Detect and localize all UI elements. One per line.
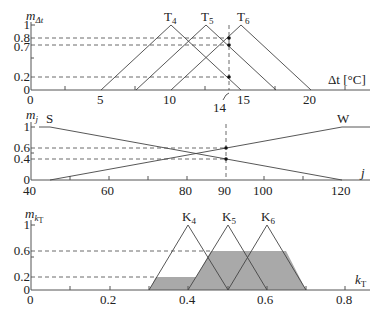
label-S: S — [46, 111, 53, 126]
svg-text:100: 100 — [253, 183, 273, 198]
mf-W — [50, 127, 370, 180]
svg-text:0.6: 0.6 — [257, 292, 274, 307]
point-W-0.6 — [224, 146, 228, 150]
svg-text:0: 0 — [27, 292, 34, 307]
svg-text:0.4: 0.4 — [14, 151, 31, 166]
annotation-arrow — [223, 93, 229, 100]
label-W: W — [337, 111, 350, 126]
svg-text:0.2: 0.2 — [100, 292, 116, 307]
x-axis-title: kT — [355, 272, 367, 289]
svg-text:60: 60 — [101, 183, 114, 198]
panel-j: 1 0.6 0.4 0 mj 40 60 80 90 100 120 j S W — [14, 107, 370, 198]
annotation-14: 14 — [213, 100, 227, 115]
svg-text:15: 15 — [237, 92, 250, 107]
label-T6: T6 — [237, 9, 250, 26]
point-T6-0.8 — [227, 36, 231, 40]
fuzzy-membership-figure: 1 0.8 0.7 0.2 0 mΔt 0 5 10 15 20 Δt [°C]… — [0, 0, 380, 312]
aggregated-area — [149, 251, 306, 290]
x-axis-title: Δt [°C] — [328, 72, 366, 87]
svg-text:40: 40 — [23, 183, 36, 198]
panel-kt: 1 0.6 0.2 0 mkT 0 0.2 0.4 0.6 0.8 kT K4 … — [14, 206, 370, 307]
label-K4: K4 — [182, 209, 196, 226]
svg-text:5: 5 — [97, 92, 104, 107]
svg-text:10: 10 — [163, 92, 176, 107]
label-K5: K5 — [222, 209, 236, 226]
svg-text:0.4: 0.4 — [179, 292, 196, 307]
label-K6: K6 — [261, 209, 275, 226]
panel-delta-t: 1 0.8 0.7 0.2 0 mΔt 0 5 10 15 20 Δt [°C]… — [14, 8, 370, 115]
x-axis-title: j — [359, 165, 365, 180]
y-axis-title: mj — [26, 107, 38, 124]
svg-text:0: 0 — [27, 92, 34, 107]
label-T4: T4 — [164, 9, 177, 26]
svg-text:90: 90 — [218, 183, 231, 198]
y-axis-title: mΔt — [26, 8, 44, 25]
svg-text:0.6: 0.6 — [14, 243, 31, 258]
svg-text:120: 120 — [331, 183, 351, 198]
svg-text:20: 20 — [303, 92, 316, 107]
svg-text:0.7: 0.7 — [14, 39, 31, 54]
svg-text:80: 80 — [179, 183, 192, 198]
point-S-0.4 — [224, 157, 228, 161]
point-T4-0.2 — [227, 75, 231, 79]
svg-text:0.8: 0.8 — [336, 292, 352, 307]
point-T5-0.7 — [227, 43, 231, 47]
label-T5: T5 — [201, 9, 214, 26]
